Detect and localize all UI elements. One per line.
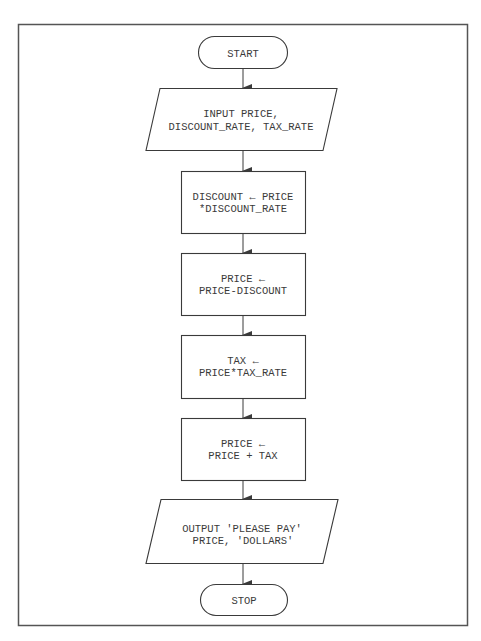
input-line-2: DISCOUNT_RATE, TAX_RATE [169, 121, 314, 133]
apply-tax-line-2: PRICE + TAX [208, 450, 278, 462]
output-block: OUTPUT 'PLEASE PAY' PRICE, 'DOLLARS' [146, 500, 338, 564]
calc-discount-line-1: DISCOUNT ← PRICE [193, 191, 294, 203]
stop-label: STOP [231, 595, 256, 607]
calc-discount-block: DISCOUNT ← PRICE *DISCOUNT_RATE [182, 172, 306, 234]
calc-tax-line-1: TAX ← [227, 355, 259, 367]
apply-tax-block: PRICE ← PRICE + TAX [182, 419, 306, 481]
apply-discount-block: PRICE ← PRICE-DISCOUNT [182, 254, 306, 316]
input-block: INPUT PRICE, DISCOUNT_RATE, TAX_RATE [146, 89, 337, 151]
calc-discount-line-2: *DISCOUNT_RATE [199, 203, 287, 215]
input-line-1: INPUT PRICE, [203, 108, 279, 120]
flowchart-canvas: START INPUT PRICE, DISCOUNT_RATE, TAX_RA… [0, 0, 481, 641]
output-line-1: OUTPUT 'PLEASE PAY' [182, 523, 302, 535]
apply-discount-line-1: PRICE ← [221, 273, 266, 285]
start-label: START [227, 48, 259, 60]
flowchart-svg: START INPUT PRICE, DISCOUNT_RATE, TAX_RA… [0, 0, 481, 641]
apply-tax-line-1: PRICE ← [221, 438, 266, 450]
start-terminal: START [199, 37, 288, 69]
apply-discount-line-2: PRICE-DISCOUNT [199, 285, 287, 297]
calc-tax-line-2: PRICE*TAX_RATE [199, 367, 287, 379]
calc-tax-block: TAX ← PRICE*TAX_RATE [182, 336, 306, 399]
output-line-2: PRICE, 'DOLLARS' [193, 535, 294, 547]
stop-terminal: STOP [201, 585, 288, 616]
